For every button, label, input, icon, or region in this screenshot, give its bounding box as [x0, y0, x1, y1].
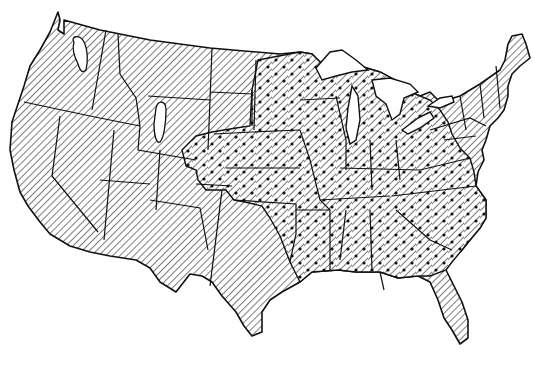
us-map — [0, 0, 535, 367]
